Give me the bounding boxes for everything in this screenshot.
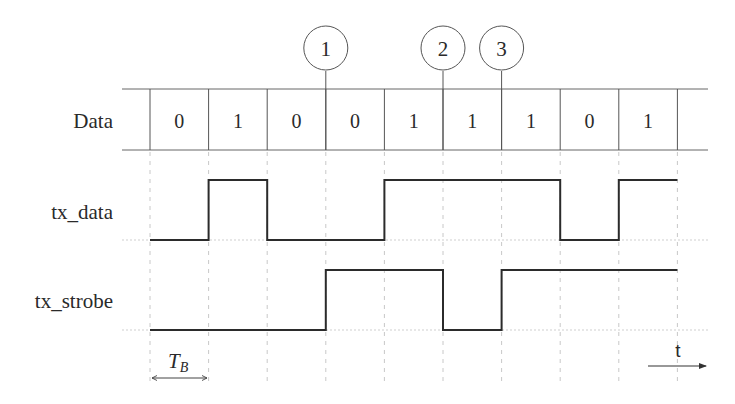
time-axis-label: t [675, 340, 681, 361]
baselines [122, 240, 710, 330]
bit-value: 0 [292, 110, 302, 132]
marker-label: 2 [438, 37, 449, 61]
timing-diagram: 010011101 Data tx_data tx_strobe 123 TB … [0, 0, 735, 404]
tx-data-label: tx_data [51, 200, 113, 224]
svg-text:TB: TB [168, 349, 189, 375]
bit-period-subscript: B [180, 360, 189, 375]
bit-value: 0 [585, 110, 595, 132]
bit-value: 1 [643, 110, 653, 132]
bit-period-annotation: TB [152, 349, 207, 378]
tx-strobe-waveform [150, 270, 677, 330]
tx-strobe-label: tx_strobe [35, 289, 113, 313]
bit-value: 1 [526, 110, 536, 132]
bit-labels: 010011101 [174, 110, 653, 132]
bit-value: 1 [467, 110, 477, 132]
marker-label: 3 [496, 37, 507, 61]
bit-value: 1 [409, 110, 419, 132]
grid-lines [150, 152, 677, 385]
bit-value: 0 [350, 110, 360, 132]
data-row-label: Data [73, 109, 113, 133]
event-marker-3: 3 [480, 26, 524, 150]
event-marker-2: 2 [421, 26, 465, 150]
bit-value: 0 [174, 110, 184, 132]
data-row: 010011101 [122, 89, 708, 150]
bit-value: 1 [233, 110, 243, 132]
tx-data-waveform [150, 180, 677, 240]
event-marker-1: 1 [304, 26, 348, 150]
marker-label: 1 [321, 37, 332, 61]
